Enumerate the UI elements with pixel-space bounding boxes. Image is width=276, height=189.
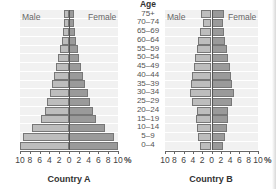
x-tick-b <box>221 151 222 154</box>
bar-male-a <box>45 107 70 115</box>
x-tick-label-b: 8 <box>246 155 251 165</box>
x-tick-label-a: 4 <box>86 155 91 165</box>
age-label: 20–24 <box>132 105 164 114</box>
bar-male-a <box>47 98 69 106</box>
x-tick-label-b: 4 <box>228 155 233 165</box>
x-tick-b <box>193 151 194 154</box>
bar-female-a <box>69 115 96 123</box>
x-unit-b: % <box>264 155 272 165</box>
x-tick-label-b: 8 <box>172 155 177 165</box>
bar-male-a <box>20 142 69 150</box>
x-tick-label-b: 4 <box>191 155 196 165</box>
bar-female-a <box>69 133 114 141</box>
age-label: 50–54 <box>132 52 164 61</box>
bar-male-b <box>200 142 211 150</box>
age-label: 5–9 <box>132 131 164 140</box>
age-label: 45–49 <box>132 61 164 70</box>
x-tick-label-a: 8 <box>106 155 111 165</box>
bar-female-b <box>212 80 233 88</box>
x-tick-b <box>258 151 259 154</box>
x-tick-a <box>30 151 31 154</box>
country-b-title: Country B <box>189 174 233 184</box>
bar-female-b <box>212 45 227 53</box>
bar-female-a <box>69 107 93 115</box>
x-tick-a <box>79 151 80 154</box>
bar-female-b <box>212 19 223 27</box>
bar-male-a <box>32 124 69 132</box>
bar-female-a <box>69 54 79 62</box>
x-tick-label-b: 2 <box>200 155 205 165</box>
bar-female-a <box>69 98 90 106</box>
male-label-b: Male <box>167 12 185 22</box>
x-tick-b <box>212 151 213 154</box>
x-tick-b <box>174 151 175 154</box>
bar-male-b <box>197 124 212 132</box>
bar-male-b <box>203 19 211 27</box>
x-tick-label-b: 6 <box>237 155 242 165</box>
center-axis-b <box>212 10 213 150</box>
bar-female-a <box>69 89 88 97</box>
x-tick-a <box>20 151 21 154</box>
country-a-title: Country A <box>47 174 90 184</box>
x-tick-label-a: 6 <box>37 155 42 165</box>
bar-male-b <box>194 63 212 71</box>
bar-male-b <box>192 98 212 106</box>
x-tick-b <box>184 151 185 154</box>
x-tick-a <box>69 151 70 154</box>
age-label: 40–44 <box>132 70 164 79</box>
x-tick-label-a: 10 <box>113 155 122 165</box>
bar-male-a <box>58 54 69 62</box>
bar-male-b <box>197 107 212 115</box>
bar-female-a <box>69 142 118 150</box>
age-label: 65–69 <box>132 26 164 35</box>
bar-female-b <box>212 107 229 115</box>
age-label: 10–14 <box>132 122 164 131</box>
x-tick-label-b: 0 <box>209 155 214 165</box>
bar-male-a <box>56 63 69 71</box>
bar-female-b <box>212 98 233 106</box>
bar-female-b <box>212 89 234 97</box>
x-tick-label-a: 4 <box>47 155 52 165</box>
bar-male-b <box>196 115 212 123</box>
bar-male-b <box>201 10 211 18</box>
bar-female-b <box>212 72 232 80</box>
x-tick-label-a: 0 <box>67 155 72 165</box>
x-tick-a <box>108 151 109 154</box>
x-unit-a: % <box>124 155 132 165</box>
x-tick-label-b: 10 <box>253 155 262 165</box>
bar-male-b <box>200 28 211 36</box>
age-label: 25–29 <box>132 96 164 105</box>
page-edge-shadow <box>272 0 276 189</box>
x-tick-a <box>98 151 99 154</box>
x-tick-label-a: 2 <box>57 155 62 165</box>
bar-female-b <box>212 54 229 62</box>
x-tick-a <box>89 151 90 154</box>
x-tick-label-b: 10 <box>160 155 169 165</box>
bar-female-b <box>212 63 230 71</box>
age-label: 35–39 <box>132 79 164 88</box>
bar-female-a <box>69 63 81 71</box>
age-label: 75+ <box>132 9 164 18</box>
bar-male-b <box>192 72 211 80</box>
bar-female-b <box>212 28 225 36</box>
female-label-a: Female <box>88 12 116 22</box>
bar-female-a <box>69 124 105 132</box>
age-label: 0–4 <box>132 140 164 149</box>
age-label: 70–74 <box>132 17 164 26</box>
bar-female-b <box>212 133 225 141</box>
x-tick-b <box>165 151 166 154</box>
bar-female-b <box>212 115 229 123</box>
x-tick-a <box>49 151 50 154</box>
age-label: 55–59 <box>132 44 164 53</box>
bar-male-a <box>50 89 69 97</box>
x-tick-label-a: 6 <box>96 155 101 165</box>
bar-male-b <box>198 37 211 45</box>
bar-female-a <box>69 80 85 88</box>
x-tick-a <box>40 151 41 154</box>
male-label-a: Male <box>22 12 40 22</box>
bar-male-a <box>60 45 69 53</box>
bar-male-a <box>41 115 69 123</box>
age-label: 60–64 <box>132 35 164 44</box>
bar-female-a <box>69 45 78 53</box>
x-tick-label-b: 6 <box>181 155 186 165</box>
